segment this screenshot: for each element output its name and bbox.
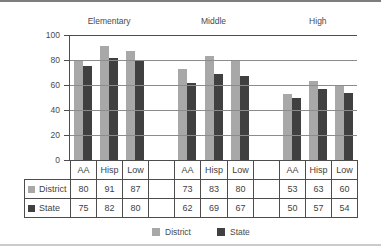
bottom-divider-line — [0, 244, 381, 246]
table-cell-state-1: 82 — [96, 198, 123, 218]
table-cell-state-3 — [148, 198, 175, 218]
table-cell-state-10: 54 — [331, 198, 358, 218]
table-col-header-low-10: Low — [331, 160, 358, 180]
plot-top-border — [70, 35, 357, 36]
table-row-label: District — [39, 184, 67, 194]
table-col-header-hisp-1: Hisp — [96, 160, 123, 180]
table-cell-state-4: 62 — [174, 198, 201, 218]
gridline-60 — [70, 85, 357, 86]
bar-state-middle-low — [240, 76, 249, 160]
table-cell-district-6: 80 — [227, 179, 254, 199]
legend-item-district: District — [152, 227, 191, 237]
legend-district-label: District — [165, 227, 191, 237]
state-swatch-icon — [28, 205, 35, 212]
table-col-header-aa-0: AA — [70, 160, 97, 180]
bar-district-middle-hisp — [205, 56, 214, 160]
table-cell-district-0: 80 — [70, 179, 97, 199]
table-col-header-hisp-9: Hisp — [305, 160, 332, 180]
y-tick-label-100: 100 — [34, 30, 60, 41]
y-tick-mark-60 — [64, 85, 70, 86]
group-label-middle: Middle — [174, 15, 252, 27]
table-cell-district-3 — [148, 179, 175, 199]
table-gap-cell — [253, 160, 280, 180]
table-cell-state-6: 67 — [227, 198, 254, 218]
table-row-header-state: State — [24, 198, 71, 218]
gridline-40 — [70, 110, 357, 111]
table-row-header-district: District — [24, 179, 71, 199]
table-cell-district-2: 87 — [122, 179, 149, 199]
y-tick-mark-100 — [64, 35, 70, 36]
table-cell-state-2: 80 — [122, 198, 149, 218]
bar-district-middle-aa — [178, 69, 187, 160]
bar-chart-figure: District State ElementaryMiddleHigh02040… — [0, 0, 381, 250]
bar-state-high-aa — [292, 98, 301, 161]
table-cell-district-1: 91 — [96, 179, 123, 199]
state-swatch-icon — [217, 228, 225, 236]
y-tick-mark-20 — [64, 135, 70, 136]
chart-legend: District State — [152, 227, 250, 237]
table-row-label: State — [39, 203, 60, 213]
y-tick-label-40: 40 — [34, 105, 60, 116]
table-col-header-low-6: Low — [227, 160, 254, 180]
bar-state-middle-aa — [187, 83, 196, 161]
district-swatch-icon — [152, 228, 160, 236]
bar-state-high-hisp — [318, 89, 327, 160]
bar-district-high-low — [335, 85, 344, 160]
table-col-header-aa-4: AA — [174, 160, 201, 180]
district-swatch-icon — [28, 186, 35, 193]
table-cell-district-7 — [253, 179, 280, 199]
bar-district-elementary-hisp — [100, 46, 109, 160]
table-col-header-hisp-5: Hisp — [200, 160, 228, 180]
y-tick-label-20: 20 — [34, 130, 60, 141]
table-cell-district-8: 53 — [279, 179, 306, 199]
table-cell-state-0: 75 — [70, 198, 97, 218]
legend-state-label: State — [230, 227, 250, 237]
bar-state-elementary-aa — [83, 66, 92, 160]
table-gap-cell — [148, 160, 175, 180]
table-cell-state-8: 50 — [279, 198, 306, 218]
table-col-header-low-2: Low — [122, 160, 149, 180]
table-cell-district-5: 83 — [200, 179, 228, 199]
y-tick-mark-80 — [64, 60, 70, 61]
table-cell-state-9: 57 — [305, 198, 332, 218]
group-label-elementary: Elementary — [70, 15, 148, 27]
gridline-20 — [70, 135, 357, 136]
table-cell-district-9: 63 — [305, 179, 332, 199]
table-cell-district-4: 73 — [174, 179, 201, 199]
y-tick-label-60: 60 — [34, 80, 60, 91]
legend-item-state: State — [217, 227, 250, 237]
bar-district-high-hisp — [309, 81, 318, 160]
y-tick-label-0: 0 — [34, 155, 60, 166]
y-tick-mark-40 — [64, 110, 70, 111]
y-tick-label-80: 80 — [34, 55, 60, 66]
top-divider-line — [0, 0, 381, 2]
bar-state-elementary-hisp — [109, 58, 118, 161]
bar-state-high-low — [344, 93, 353, 161]
table-cell-state-5: 69 — [200, 198, 228, 218]
bar-district-high-aa — [283, 94, 292, 160]
bar-district-elementary-low — [126, 51, 135, 160]
table-col-header-aa-8: AA — [279, 160, 306, 180]
y-axis-line — [69, 35, 70, 160]
table-cell-state-7 — [253, 198, 280, 218]
table-cell-district-10: 60 — [331, 179, 358, 199]
gridline-80 — [70, 60, 357, 61]
bar-state-middle-hisp — [214, 74, 223, 160]
group-label-high: High — [279, 15, 357, 27]
